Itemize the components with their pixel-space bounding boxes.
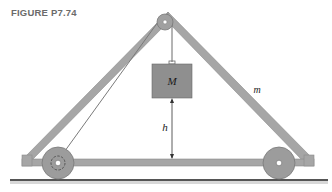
string-diagonal xyxy=(62,22,158,155)
height-label: h xyxy=(162,121,168,133)
pulley xyxy=(157,14,173,30)
right-wheel xyxy=(263,147,295,179)
height-indicator xyxy=(170,98,174,159)
frame-left-strut xyxy=(22,12,168,160)
left-wheel xyxy=(42,147,74,179)
ground xyxy=(10,179,328,184)
frame-mass-label: m xyxy=(253,84,260,95)
mass-block-label: M xyxy=(166,75,177,87)
pulley-cart-diagram: M h m xyxy=(0,0,332,192)
